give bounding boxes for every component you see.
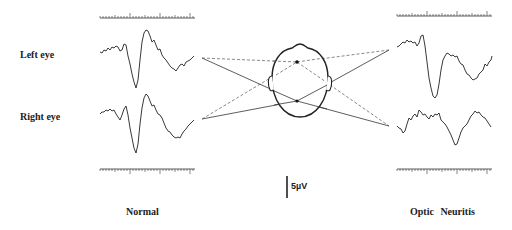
electrode-dot-lower bbox=[295, 99, 298, 102]
scale-bar-label: 5µV bbox=[291, 181, 307, 191]
neuritis-top-timescale bbox=[397, 11, 492, 16]
optic-neuritis-caption: Optic Neuritis bbox=[410, 206, 475, 217]
left-eye-label: Left eye bbox=[20, 49, 54, 60]
normal-caption: Normal bbox=[126, 206, 159, 217]
normal-right-eye-trace bbox=[100, 94, 194, 153]
head-icon bbox=[268, 44, 331, 117]
right-eye-label: Right eye bbox=[20, 111, 60, 122]
normal-left-eye-trace bbox=[100, 30, 194, 88]
neuritis-right-eye-trace bbox=[397, 110, 491, 145]
vep-diagram bbox=[0, 0, 512, 230]
normal-bottom-timescale bbox=[100, 169, 195, 174]
electrode-dot-upper bbox=[295, 60, 299, 64]
neuritis-bottom-timescale bbox=[397, 169, 492, 174]
normal-top-timescale bbox=[100, 13, 195, 18]
neuritis-left-eye-trace bbox=[397, 35, 492, 98]
